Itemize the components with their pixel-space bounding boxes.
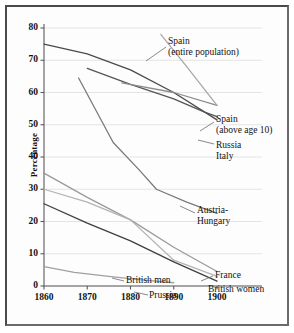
series-label-spain-entire-population: Spain (entire population) — [168, 36, 239, 57]
leader-british-men — [112, 278, 124, 281]
x-tick-1860: 1860 — [27, 292, 61, 302]
series-label-france: France — [215, 270, 241, 281]
series-line-france — [44, 173, 217, 271]
y-tick-30: 30 — [20, 183, 38, 193]
series-label-russia: Russia — [216, 140, 241, 151]
leader-spain-above-age-10 — [200, 122, 214, 131]
leader-austria-hungary — [180, 206, 195, 213]
leader-russia — [198, 140, 214, 144]
y-tick-40: 40 — [20, 151, 38, 161]
series-line-british-women — [44, 189, 217, 276]
spain-above-line1: Spain — [216, 114, 272, 125]
y-tick-70: 70 — [20, 54, 38, 64]
spain-entire-line2: (entire population) — [168, 47, 239, 58]
series-label-spain-above-age-10: Spain (above age 10) — [216, 114, 272, 135]
austria-line2: Hungary — [197, 216, 230, 227]
y-tick-10: 10 — [20, 248, 38, 258]
chart-figure: Percentage 80706050403020100 18601870188… — [0, 0, 294, 333]
leader-spain-entire-population — [146, 47, 166, 61]
data-series-group — [44, 34, 217, 282]
series-label-austria-hungary: Austria- Hungary — [197, 205, 230, 226]
series-label-british-women: British women — [208, 284, 264, 295]
y-tick-80: 80 — [20, 22, 38, 32]
y-tick-20: 20 — [20, 216, 38, 226]
spain-above-line2: (above age 10) — [216, 125, 272, 136]
y-tick-50: 50 — [20, 119, 38, 129]
x-tick-1870: 1870 — [70, 292, 104, 302]
spain-entire-line1: Spain — [168, 36, 239, 47]
series-line-austria-hungary — [79, 78, 217, 213]
series-label-prussia: Prussia — [149, 290, 176, 301]
series-label-italy: Italy — [216, 151, 233, 162]
y-tick-0: 0 — [20, 280, 38, 290]
series-line-british-men — [44, 204, 217, 281]
x-tick-1880: 1880 — [114, 292, 148, 302]
series-label-british-men: British men — [126, 275, 171, 286]
y-tick-60: 60 — [20, 87, 38, 97]
austria-line1: Austria- — [197, 205, 230, 216]
